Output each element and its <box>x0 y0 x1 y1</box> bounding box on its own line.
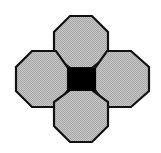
octagon-bottom <box>54 90 108 142</box>
center-square <box>68 68 95 90</box>
octagon-square-tiling-figure <box>0 0 161 153</box>
figure-root <box>0 0 161 153</box>
